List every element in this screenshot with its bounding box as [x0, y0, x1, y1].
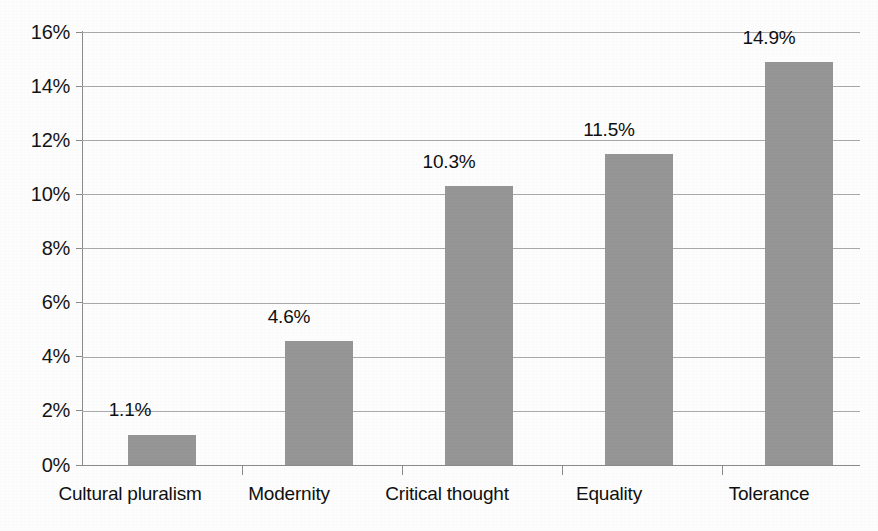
bar-modernity[interactable] [285, 341, 353, 465]
x-category-label-tolerance: Tolerance [693, 483, 845, 505]
bar-value-label-cultural-pluralism: 1.1% [82, 400, 178, 419]
x-category-label-modernity: Modernity [213, 483, 365, 505]
y-tick-label-8: 8% [42, 238, 70, 258]
gridline-14 [82, 86, 860, 87]
x-tick-mark-4 [722, 466, 723, 475]
x-category-label-critical-thought: Critical thought [365, 483, 529, 505]
bar-value-label-critical-thought: 10.3% [401, 152, 497, 171]
bar-value-label-tolerance: 14.9% [721, 28, 817, 47]
y-axis-labels: 16% 14% 12% 10% 8% 6% 4% 2% 0% [0, 0, 70, 531]
y-tick-label-2: 2% [42, 400, 70, 420]
plot-area [82, 32, 860, 465]
y-tick-label-0: 0% [42, 455, 70, 475]
y-tick-label-14: 14% [31, 76, 70, 96]
y-tick-label-4: 4% [42, 346, 70, 366]
y-tick-label-12: 12% [31, 130, 70, 150]
bar-value-label-modernity: 4.6% [241, 307, 337, 326]
x-axis-baseline [82, 465, 860, 466]
x-tick-mark-3 [562, 466, 563, 475]
bar-value-label-equality: 11.5% [561, 120, 657, 139]
bar-equality[interactable] [605, 154, 673, 465]
x-tick-mark-2 [402, 466, 403, 475]
y-tick-label-16: 16% [31, 22, 70, 42]
bar-chart: 16% 14% 12% 10% 8% 6% 4% 2% 0% [0, 0, 878, 531]
y-tick-label-10: 10% [31, 184, 70, 204]
x-category-label-equality: Equality [533, 483, 685, 505]
bar-tolerance[interactable] [765, 62, 833, 465]
x-tick-mark-1 [242, 466, 243, 475]
x-category-label-cultural-pluralism: Cultural pluralism [42, 483, 218, 505]
y-tick-label-6: 6% [42, 292, 70, 312]
bar-cultural-pluralism[interactable] [128, 435, 196, 465]
gridline-12 [82, 140, 860, 141]
bar-critical-thought[interactable] [445, 186, 513, 465]
